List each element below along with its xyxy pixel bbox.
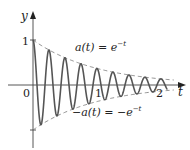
origin-label: 0 bbox=[23, 87, 30, 100]
t-tick-label-1: 1 bbox=[95, 87, 102, 100]
y-tick-label-1: 1 bbox=[22, 35, 29, 48]
upper-envelope-annotation: a(t) = e−t bbox=[75, 40, 126, 54]
y-axis-arrow-icon bbox=[30, 11, 36, 19]
t-tick-label-2: 2 bbox=[156, 87, 163, 100]
t-axis-label: t bbox=[178, 85, 183, 99]
y-axis-label: y bbox=[20, 9, 28, 23]
damped-oscillation-chart: y t 0 1 1 2 a(t) = e−t −a(t) = −e−t bbox=[0, 0, 190, 150]
lower-envelope-annotation: −a(t) = −e−t bbox=[72, 105, 142, 119]
